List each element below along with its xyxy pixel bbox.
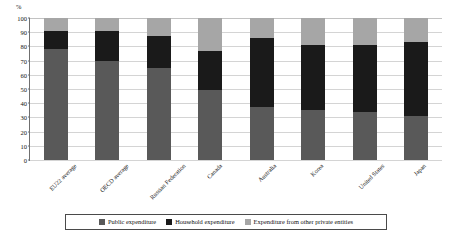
bar-group [391, 18, 443, 160]
stacked-bar[interactable] [301, 18, 325, 160]
x-axis-tick-label: Australia [256, 162, 277, 183]
legend-swatch-household [166, 219, 172, 225]
bar-segment-household [44, 31, 68, 49]
stacked-bar[interactable] [198, 18, 222, 160]
stacked-bar[interactable] [404, 18, 428, 160]
bar-segment-household [404, 42, 428, 116]
legend-label: Household expenditure [175, 218, 234, 226]
bar-segment-household [301, 45, 325, 110]
y-axis-tick-label: 90 [21, 29, 28, 36]
x-axis-tick-label: Japan [412, 162, 427, 177]
x-axis-label-slot: EU22 average [29, 161, 81, 205]
bar-group [288, 18, 340, 160]
chart-legend: Public expenditureHousehold expenditureE… [65, 214, 387, 230]
y-axis-tick-label: 60 [21, 71, 28, 78]
y-axis-tick-label: 100 [17, 15, 27, 22]
legend-label: Public expenditure [108, 218, 156, 226]
x-axis-tick-label: Korea [309, 162, 325, 178]
y-axis-unit-label: % [16, 3, 21, 11]
legend-swatch-other [245, 219, 251, 225]
x-axis-tick-label: OECD average [98, 162, 130, 194]
plot-area: 0102030405060708090100 [29, 18, 442, 161]
stacked-bar-chart: % 0102030405060708090100 EU22 averageOEC… [0, 0, 451, 244]
bar-segment-other [147, 18, 171, 36]
bar-segment-household [250, 38, 274, 108]
x-axis-labels: EU22 averageOECD averageRussian Federati… [29, 161, 441, 205]
stacked-bar[interactable] [95, 18, 119, 160]
bar-segment-public [147, 68, 171, 160]
x-axis-tick-label: Russian Federation [148, 162, 187, 201]
legend-item[interactable]: Expenditure from other private entities [245, 218, 353, 226]
bar-group [236, 18, 288, 160]
y-axis-tick-label: 10 [21, 142, 28, 149]
bar-segment-public [95, 61, 119, 160]
x-axis-tick-label: Canada [205, 162, 223, 180]
bar-segment-other [198, 18, 222, 51]
bar-segment-other [353, 18, 377, 45]
x-axis-label-slot: Canada [184, 161, 236, 205]
legend-swatch-public [99, 219, 105, 225]
y-axis-tick-label: 40 [21, 100, 28, 107]
bar-segment-household [198, 51, 222, 91]
x-axis-label-slot: Korea [287, 161, 339, 205]
bar-segment-household [95, 31, 119, 61]
y-axis-tick-label: 30 [21, 114, 28, 121]
bar-segment-other [301, 18, 325, 45]
bar-segment-public [301, 110, 325, 160]
bar-group [339, 18, 391, 160]
y-axis-tick-label: 0 [24, 157, 27, 164]
bar-segment-other [95, 18, 119, 31]
stacked-bar[interactable] [250, 18, 274, 160]
bar-segment-household [147, 36, 171, 67]
bar-group [82, 18, 134, 160]
x-axis-label-slot: United States [338, 161, 390, 205]
bar-segment-public [353, 112, 377, 160]
y-axis-tick-label: 70 [21, 57, 28, 64]
x-axis-label-slot: Russian Federation [132, 161, 184, 205]
bar-series-container [30, 18, 442, 160]
bar-segment-public [198, 90, 222, 160]
bar-group [185, 18, 237, 160]
stacked-bar[interactable] [44, 18, 68, 160]
x-axis-label-slot: Japan [390, 161, 442, 205]
bar-segment-other [250, 18, 274, 38]
y-axis-tick-label: 80 [21, 43, 28, 50]
legend-item[interactable]: Public expenditure [99, 218, 156, 226]
bar-group [30, 18, 82, 160]
stacked-bar[interactable] [353, 18, 377, 160]
x-axis-tick-label: EU22 average [47, 162, 77, 192]
bar-segment-public [404, 116, 428, 160]
x-axis-tick-label: United States [357, 162, 385, 190]
bar-group [133, 18, 185, 160]
legend-item[interactable]: Household expenditure [166, 218, 234, 226]
y-axis-tick-label: 50 [21, 86, 28, 93]
bar-segment-other [404, 18, 428, 42]
y-axis-tick-label: 20 [21, 128, 28, 135]
bar-segment-public [250, 107, 274, 160]
x-axis-label-slot: Australia [235, 161, 287, 205]
bar-segment-public [44, 49, 68, 160]
x-axis-label-slot: OECD average [81, 161, 133, 205]
bar-segment-other [44, 18, 68, 31]
legend-label: Expenditure from other private entities [254, 218, 353, 226]
stacked-bar[interactable] [147, 18, 171, 160]
bar-segment-household [353, 45, 377, 112]
